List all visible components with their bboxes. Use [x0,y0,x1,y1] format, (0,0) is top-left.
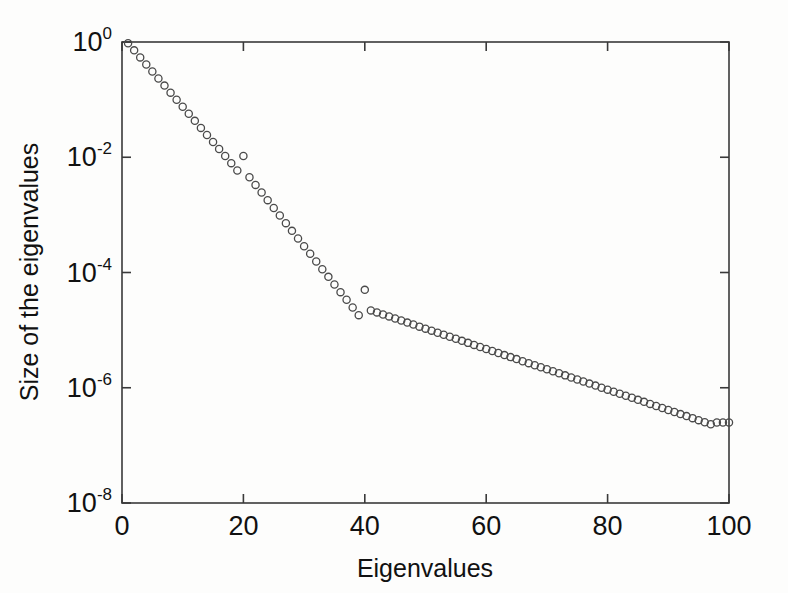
x-tick-label: 40 [350,511,380,541]
x-tick-label: 0 [114,511,129,541]
eigenvalue-spectrum-chart: 020406080100 10010-210-410-610-8 Eigenva… [0,0,788,593]
x-axis-tick-labels: 020406080100 [114,511,751,541]
y-tick-label: 10-6 [67,370,112,403]
x-tick-label: 20 [228,511,258,541]
axis-ticks [122,42,729,503]
plot-frame [122,42,729,503]
y-tick-label: 10-2 [67,139,112,172]
figure-container: 020406080100 10010-210-410-610-8 Eigenva… [0,0,788,593]
data-series-markers [124,40,732,428]
y-tick-label: 10-4 [67,255,112,288]
y-axis-tick-labels: 10010-210-410-610-8 [67,24,112,518]
y-tick-label: 10-8 [67,485,112,518]
x-tick-label: 100 [706,511,751,541]
y-tick-label: 100 [72,24,112,57]
y-axis-title: Size of the eigenvalues [15,143,43,402]
x-tick-label: 60 [471,511,501,541]
x-axis-title: Eigenvalues [357,554,493,582]
x-tick-label: 80 [593,511,623,541]
